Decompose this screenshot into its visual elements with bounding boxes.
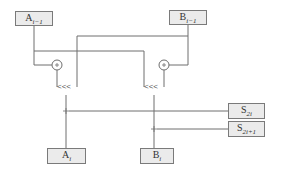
junction-marks: [63, 108, 157, 132]
adder-right: [159, 60, 169, 70]
key-s2i1-box: S2i+1: [228, 121, 265, 137]
wire-a-prev-to-adder: [34, 25, 52, 65]
key-s2i1-label: S2i+1: [237, 122, 256, 136]
output-b-label: Bi: [153, 149, 162, 163]
adder-left: [52, 60, 62, 70]
wire-a-prev-cross: [34, 51, 144, 87]
rotate-left-label: <<<: [57, 82, 71, 91]
input-b-prev-box: Bi−1: [169, 10, 207, 25]
input-a-prev-box: Ai−1: [15, 11, 53, 26]
wire-b-prev-to-adder: [169, 24, 188, 65]
input-b-prev-label: Bi−1: [180, 11, 197, 25]
key-s2i-label: S2i: [241, 104, 252, 118]
wire-b-prev-cross: [77, 36, 188, 87]
output-b-box: Bi: [140, 148, 174, 164]
output-a-label: Ai: [62, 149, 71, 163]
output-a-box: Ai: [47, 148, 86, 164]
key-s2i-box: S2i: [228, 103, 265, 119]
rotate-right-label: <<<: [144, 82, 158, 91]
input-a-prev-label: Ai−1: [25, 12, 42, 26]
